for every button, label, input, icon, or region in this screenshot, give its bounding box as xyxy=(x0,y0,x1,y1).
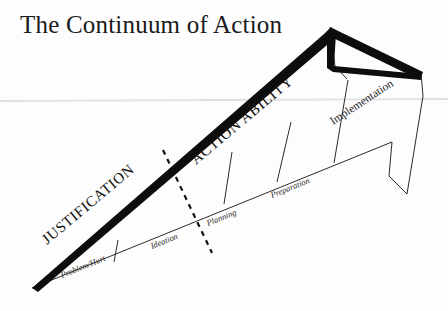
diagram-canvas: The Continuum of Action Problem/Hurt Ide… xyxy=(0,0,448,311)
page-title: The Continuum of Action xyxy=(20,11,283,38)
continuum-of-action-diagram: The Continuum of Action Problem/Hurt Ide… xyxy=(0,0,448,311)
